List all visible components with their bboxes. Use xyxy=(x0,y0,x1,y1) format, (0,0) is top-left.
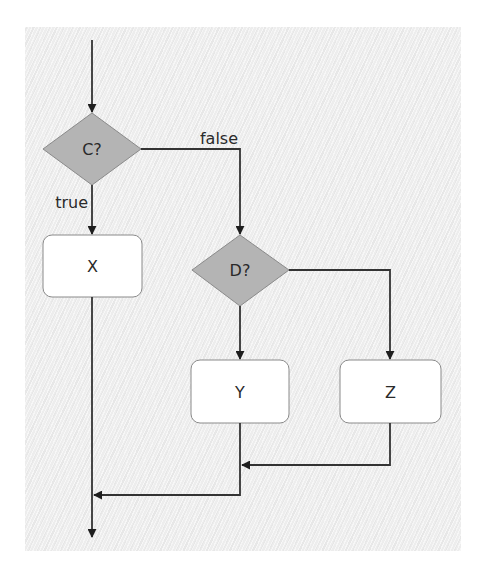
process-node-x: X xyxy=(43,235,142,297)
flowchart: C? true false X D? Y Z xyxy=(0,0,483,574)
process-x-label: X xyxy=(87,257,98,276)
process-y-label: Y xyxy=(234,383,245,402)
edge-d-to-z xyxy=(289,270,390,359)
decision-d-label: D? xyxy=(230,261,251,280)
process-node-y: Y xyxy=(191,360,289,423)
edge-z-merge xyxy=(242,423,390,465)
process-z-label: Z xyxy=(385,383,396,402)
true-branch-label: true xyxy=(55,193,88,212)
process-node-z: Z xyxy=(340,360,441,423)
decision-node-d: D? xyxy=(192,235,289,306)
decision-c-label: C? xyxy=(82,140,102,159)
edge-y-merge xyxy=(94,423,240,495)
edge-c-false-to-d xyxy=(141,149,240,234)
decision-node-c: C? xyxy=(43,113,141,185)
false-branch-label: false xyxy=(200,129,238,148)
